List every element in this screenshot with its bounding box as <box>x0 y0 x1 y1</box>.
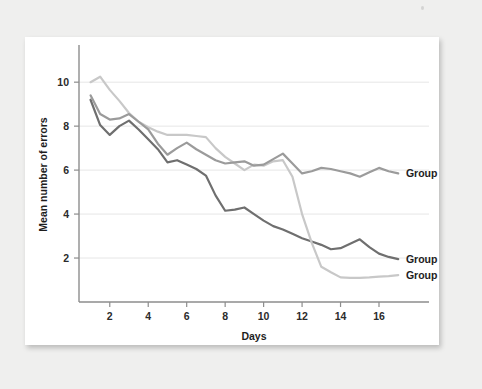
figure-card: 246810 246810121416 Group 1Group 2Group … <box>25 37 439 345</box>
y-axis-title: Mean number of errors <box>37 117 49 232</box>
y-tick-label-4: 4 <box>63 208 69 220</box>
series-label-group-2: Group 2 <box>406 269 439 281</box>
x-tick-labels: 246810121416 <box>107 310 385 322</box>
y-tick-labels: 246810 <box>57 76 69 264</box>
x-tick-label-2: 2 <box>107 310 113 322</box>
x-tick-label-8: 8 <box>222 310 228 322</box>
x-tick-label-10: 10 <box>258 310 270 322</box>
series-line-group-2 <box>91 77 399 278</box>
series-line-group-3 <box>91 95 399 176</box>
scan-speck <box>421 6 424 10</box>
x-tick-label-4: 4 <box>145 310 151 322</box>
series-inline-labels: Group 1Group 2Group 3 <box>406 167 439 281</box>
x-tick-label-14: 14 <box>335 310 347 322</box>
y-tick-label-6: 6 <box>63 164 69 176</box>
y-tick-label-10: 10 <box>57 76 69 88</box>
series-label-group-1: Group 1 <box>406 253 439 265</box>
line-chart: 246810 246810121416 Group 1Group 2Group … <box>25 37 439 345</box>
series-label-group-3: Group 3 <box>406 167 439 179</box>
x-tick-label-12: 12 <box>296 310 308 322</box>
x-tick-label-16: 16 <box>373 310 385 322</box>
x-axis-title: Days <box>241 330 266 342</box>
series-lines <box>91 77 399 278</box>
series-line-group-1 <box>91 100 399 259</box>
y-tick-label-2: 2 <box>63 252 69 264</box>
y-tick-label-8: 8 <box>63 120 69 132</box>
x-tick-label-6: 6 <box>184 310 190 322</box>
axes <box>79 45 429 302</box>
